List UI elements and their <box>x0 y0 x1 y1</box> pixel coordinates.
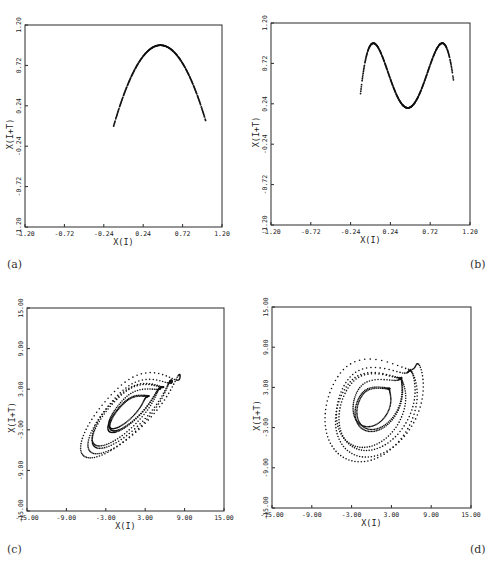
data-point <box>374 388 376 390</box>
data-point <box>397 409 399 411</box>
data-point <box>357 404 359 406</box>
data-point <box>165 375 167 377</box>
data-point <box>100 418 102 420</box>
data-point <box>358 370 360 372</box>
data-point <box>357 405 359 407</box>
data-point <box>389 406 391 408</box>
data-point <box>356 411 358 413</box>
data-point <box>369 431 371 433</box>
x-axis-label: X(I) <box>115 521 135 531</box>
data-point <box>145 407 147 409</box>
data-point <box>149 383 151 385</box>
data-point <box>376 448 378 450</box>
data-point <box>395 436 397 438</box>
data-point <box>204 116 206 118</box>
data-point <box>357 407 359 409</box>
data-point <box>343 437 345 439</box>
data-point <box>177 379 179 381</box>
x-tick-label: 9.00 <box>177 514 193 522</box>
data-point <box>417 414 419 416</box>
data-point <box>356 455 358 457</box>
data-point <box>408 368 410 370</box>
data-point <box>383 453 385 455</box>
data-point <box>133 425 135 427</box>
data-point <box>347 450 349 452</box>
data-point <box>134 391 136 393</box>
data-point <box>137 390 139 392</box>
data-point <box>142 395 144 397</box>
data-point <box>338 413 340 415</box>
data-point <box>383 452 385 454</box>
data-point <box>370 367 372 369</box>
data-point <box>403 425 405 427</box>
data-point <box>354 461 356 463</box>
data-point <box>128 423 130 425</box>
y-axis-label: X(I+T) <box>7 402 17 433</box>
data-point <box>342 392 344 394</box>
data-point <box>341 401 343 403</box>
data-point <box>340 455 342 457</box>
data-point <box>451 67 453 69</box>
data-point <box>336 407 338 409</box>
data-point <box>125 425 127 427</box>
data-point <box>164 392 166 394</box>
data-point <box>383 388 385 390</box>
data-point <box>144 388 146 390</box>
data-point <box>451 68 453 70</box>
data-point <box>89 435 91 437</box>
data-point <box>98 421 100 423</box>
data-point <box>325 409 327 411</box>
data-point <box>107 408 109 410</box>
data-point <box>149 388 151 390</box>
data-point <box>406 432 408 434</box>
data-point <box>343 446 345 448</box>
data-point <box>413 402 415 404</box>
data-point <box>101 445 103 447</box>
data-point <box>374 430 376 432</box>
data-point <box>102 447 104 449</box>
data-point <box>385 424 387 426</box>
data-point <box>82 438 84 440</box>
data-point <box>156 409 158 411</box>
data-point <box>358 389 360 391</box>
data-point <box>395 426 397 428</box>
plot-frame <box>272 307 471 508</box>
data-point <box>134 385 136 387</box>
data-point <box>404 408 406 410</box>
data-point <box>366 446 368 448</box>
data-point <box>335 421 337 423</box>
data-point <box>125 387 127 389</box>
data-point <box>144 418 146 420</box>
data-point <box>366 381 368 383</box>
data-point <box>87 443 89 445</box>
y-tick-label: 15.00 <box>17 298 25 318</box>
data-point <box>146 419 148 421</box>
data-point <box>343 385 345 387</box>
data-point <box>81 440 83 442</box>
data-point <box>355 394 357 396</box>
data-point <box>155 389 157 391</box>
data-point <box>343 395 345 397</box>
y-tick-label: 3.00 <box>262 379 270 395</box>
data-point <box>126 86 128 88</box>
data-point <box>112 413 114 415</box>
data-point <box>337 404 339 406</box>
x-tick-label: -0.72 <box>55 230 75 238</box>
panel-c-plot: -15.00-9.00-3.003.009.0015.00-15.00-9.00… <box>7 298 234 531</box>
data-point <box>392 431 394 433</box>
data-point <box>135 396 137 398</box>
data-point <box>110 403 112 405</box>
data-point <box>99 416 101 418</box>
data-point <box>147 415 149 417</box>
data-point <box>158 401 160 403</box>
data-point <box>355 378 357 380</box>
data-point <box>119 444 121 446</box>
data-point <box>174 379 176 381</box>
data-point <box>96 412 98 414</box>
y-tick-label: -15.00 <box>17 499 25 523</box>
data-point <box>379 442 381 444</box>
data-point <box>341 395 343 397</box>
data-point <box>401 396 403 398</box>
data-point <box>357 401 359 403</box>
data-point <box>345 458 347 460</box>
